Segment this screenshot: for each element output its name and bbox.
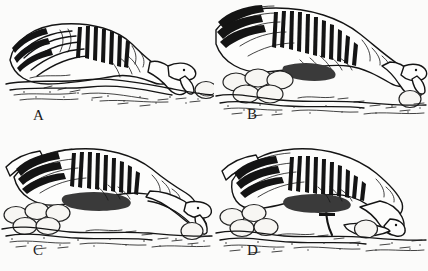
panel-label-a: A <box>33 108 44 123</box>
eye-a <box>183 69 185 71</box>
eye-c <box>197 207 199 209</box>
eye-b <box>415 69 417 71</box>
panel-label-b: B <box>247 107 258 122</box>
panel-label-d: D <box>247 243 258 258</box>
goose-c <box>6 149 211 235</box>
figure-egg-rolling-sequence: A <box>0 0 428 271</box>
eye-d <box>395 224 397 226</box>
goose-a <box>10 24 196 95</box>
nest-clutch-c <box>4 203 70 235</box>
nest-clutch-b <box>223 69 293 103</box>
panel-label-c: C <box>33 243 44 258</box>
rolled-egg-d <box>355 220 378 238</box>
